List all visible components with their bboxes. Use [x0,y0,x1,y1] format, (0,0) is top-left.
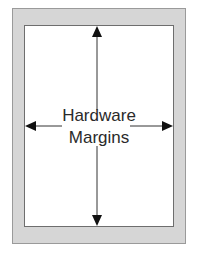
arrow-up-icon [92,26,102,37]
arrow-down-icon [92,215,102,226]
label-hardware: Hardware [24,106,174,126]
label-margins: Margins [24,128,174,148]
